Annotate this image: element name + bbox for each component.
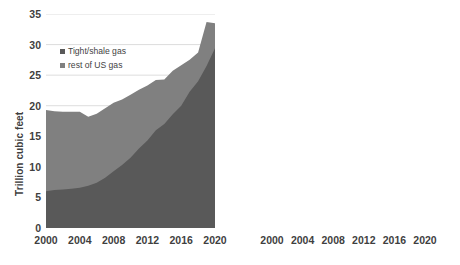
gas-legend: Tight/shale gasrest of US gas <box>60 47 126 75</box>
legend-swatch-icon <box>60 63 65 68</box>
legend-item[interactable]: Tight/shale gas <box>60 47 126 56</box>
y-tick-label: 5 <box>11 191 41 203</box>
y-tick-label: 0 <box>11 222 41 234</box>
gas-y-axis-title: Trillion cubic feet <box>14 112 25 196</box>
legend-item-label: rest of US gas <box>68 61 122 70</box>
x-tick-label: 2020 <box>405 234 445 246</box>
chart-panel-oil: Million barrels per day 02468101214 2000… <box>230 0 460 265</box>
y-tick-label: 10 <box>11 161 41 173</box>
legend-item-label: Tight/shale gas <box>68 47 126 56</box>
chart-panel-gas: Trillion cubic feet 05101520253035 20002… <box>0 0 230 265</box>
y-tick-label: 30 <box>11 39 41 51</box>
y-tick-label: 20 <box>11 100 41 112</box>
figure-container: Trillion cubic feet 05101520253035 20002… <box>0 0 460 265</box>
y-tick-label: 25 <box>11 69 41 81</box>
x-tick-label: 2020 <box>195 234 235 246</box>
legend-item[interactable]: rest of US gas <box>60 61 126 70</box>
y-tick-label: 35 <box>11 8 41 20</box>
y-tick-label: 15 <box>11 130 41 142</box>
legend-swatch-icon <box>60 49 65 54</box>
